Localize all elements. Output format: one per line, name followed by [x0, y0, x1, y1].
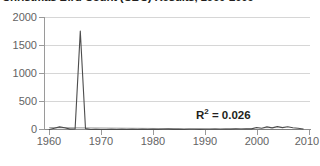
y-tick-label-1500: 1500	[1, 40, 37, 51]
chart-title: Christmas Bird Count (CBC) Results, 1960…	[2, 0, 320, 3]
x-tick-label-1960: 1960	[29, 136, 69, 147]
x-tick-label-1980: 1980	[133, 136, 173, 147]
data-line-cbc-count	[49, 31, 303, 129]
y-tick-label-500: 500	[1, 96, 37, 107]
y-tick-label-2000: 2000	[1, 12, 37, 23]
y-tick-label-0: 0	[1, 124, 37, 135]
series-svg	[44, 17, 311, 130]
x-tick-label-2000: 2000	[237, 136, 277, 147]
x-tick-label-1970: 1970	[81, 136, 121, 147]
r-squared-annotation: R2 = 0.026	[196, 107, 251, 121]
x-tick-label-2010: 2010	[287, 136, 320, 147]
r-squared-value: = 0.026	[209, 109, 251, 121]
chart-container: Christmas Bird Count (CBC) Results, 1960…	[0, 0, 320, 166]
y-tick-label-1000: 1000	[1, 68, 37, 79]
x-tick-label-1990: 1990	[185, 136, 225, 147]
